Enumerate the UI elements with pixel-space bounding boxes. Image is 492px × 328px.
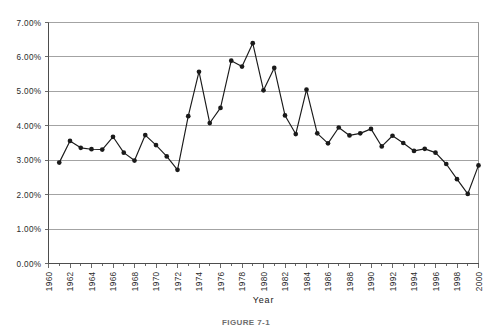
data-point-marker: [78, 145, 83, 150]
data-point-marker: [293, 132, 298, 137]
y-tick-label: 4.00%: [17, 122, 42, 131]
line-chart: 0.00%1.00%2.00%3.00%4.00%5.00%6.00%7.00%…: [0, 0, 492, 328]
data-point-marker: [121, 150, 126, 155]
y-tick-label: 7.00%: [17, 19, 42, 28]
data-point-marker: [175, 168, 180, 173]
x-tick-label: 1966: [109, 271, 118, 291]
x-axis-ticks: [49, 264, 479, 268]
y-tick-label: 2.00%: [17, 191, 42, 200]
data-point-marker: [476, 163, 481, 168]
data-point-marker: [207, 121, 212, 126]
y-tick-label: 6.00%: [17, 53, 42, 62]
data-point-marker: [455, 177, 460, 182]
x-tick-label: 1998: [453, 271, 462, 291]
x-tick-label: 1994: [410, 271, 419, 291]
data-point-marker: [283, 113, 288, 118]
data-point-marker: [154, 143, 159, 148]
y-tick-label: 1.00%: [17, 225, 42, 234]
x-tick-label: 1978: [238, 271, 247, 291]
data-point-marker: [111, 134, 116, 139]
data-point-marker: [336, 125, 341, 130]
data-point-marker: [379, 144, 384, 149]
data-point-marker: [369, 127, 374, 132]
x-tick-label: 1964: [88, 271, 97, 291]
data-point-marker: [347, 133, 352, 138]
data-point-marker: [304, 87, 309, 92]
x-tick-label: 1980: [260, 271, 269, 291]
y-tick-label: 5.00%: [17, 87, 42, 96]
x-tick-label: 1996: [432, 271, 441, 291]
x-tick-label: 1990: [367, 271, 376, 291]
gridlines: [49, 23, 479, 230]
data-point-marker: [272, 66, 277, 71]
x-tick-label: 1972: [174, 271, 183, 291]
data-point-marker: [143, 133, 148, 138]
plot-frame: [49, 23, 479, 264]
x-axis-title: Year: [253, 295, 274, 305]
data-point-marker: [433, 150, 438, 155]
data-point-marker: [422, 147, 427, 152]
x-tick-label: 1982: [281, 271, 290, 291]
data-point-marker: [218, 106, 223, 111]
x-tick-label: 1960: [45, 271, 54, 291]
data-point-marker: [132, 158, 137, 163]
y-axis-tick-labels: 0.00%1.00%2.00%3.00%4.00%5.00%6.00%7.00%: [17, 19, 42, 269]
data-point-marker: [68, 139, 73, 144]
x-tick-label: 1976: [217, 271, 226, 291]
x-axis-tick-labels: 1960196219641966196819701972197419761978…: [45, 271, 484, 291]
data-point-marker: [89, 147, 94, 152]
figure-container: 0.00%1.00%2.00%3.00%4.00%5.00%6.00%7.00%…: [0, 0, 492, 328]
data-point-marker: [465, 192, 470, 197]
x-tick-label: 1988: [346, 271, 355, 291]
data-point-marker: [240, 64, 245, 69]
data-point-marker: [197, 69, 202, 74]
data-point-marker: [229, 58, 234, 63]
data-point-marker: [315, 131, 320, 136]
x-tick-label: 1970: [152, 271, 161, 291]
data-point-marker: [164, 154, 169, 159]
x-tick-label: 1974: [195, 271, 204, 291]
figure-caption: FIGURE 7-1: [0, 318, 492, 327]
y-tick-label: 0.00%: [17, 260, 42, 269]
data-point-marker: [250, 41, 255, 46]
series-line: [59, 43, 478, 194]
x-tick-label: 2000: [475, 271, 484, 291]
data-point-marker: [57, 160, 62, 165]
x-tick-label: 1986: [324, 271, 333, 291]
data-point-marker: [100, 147, 105, 152]
x-tick-label: 1962: [66, 271, 75, 291]
x-tick-label: 1968: [131, 271, 140, 291]
data-point-marker: [186, 114, 191, 119]
data-point-marker: [326, 141, 331, 146]
data-point-marker: [261, 88, 266, 93]
data-point-marker: [358, 131, 363, 136]
x-tick-label: 1984: [303, 271, 312, 291]
data-point-marker: [444, 162, 449, 167]
data-series: [57, 41, 481, 196]
data-point-marker: [401, 141, 406, 146]
data-point-marker: [390, 133, 395, 138]
y-axis-ticks: [45, 23, 49, 264]
data-point-marker: [412, 149, 417, 154]
x-tick-label: 1992: [389, 271, 398, 291]
y-tick-label: 3.00%: [17, 156, 42, 165]
